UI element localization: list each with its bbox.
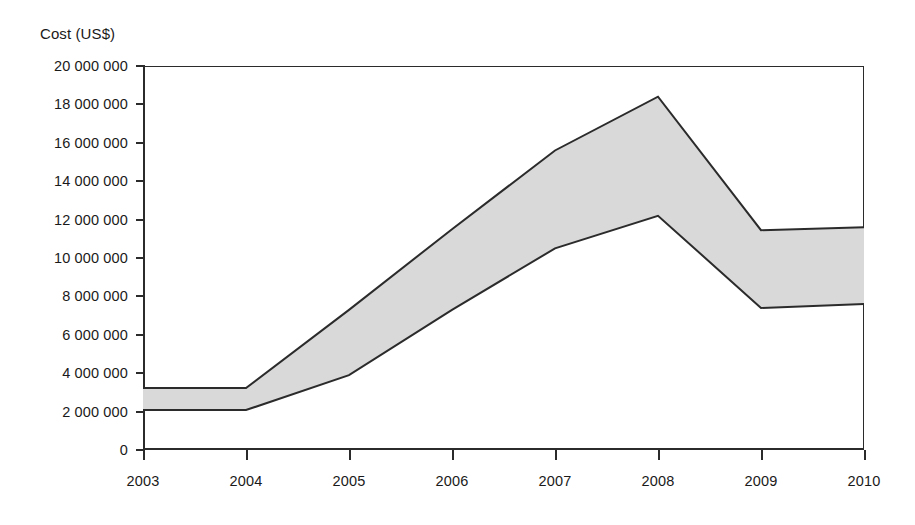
x-axis-tick-mark: [452, 450, 454, 460]
cost-range-band: [143, 97, 864, 410]
x-axis-tick-label: 2004: [201, 473, 291, 489]
y-axis-tick-label: 10 000 000: [32, 250, 128, 266]
y-axis-tick-label: 20 000 000: [32, 58, 128, 74]
plot-area: [143, 66, 864, 450]
x-axis-tick-mark: [143, 450, 145, 460]
x-axis-tick-mark: [658, 450, 660, 460]
x-axis-tick-label: 2003: [98, 473, 188, 489]
x-axis-tick-label: 2007: [510, 473, 600, 489]
x-axis-tick-label: 2006: [407, 473, 497, 489]
y-axis-tick-label: 12 000 000: [32, 212, 128, 228]
x-axis-tick-label: 2010: [819, 473, 909, 489]
x-axis-tick-mark: [349, 450, 351, 460]
x-axis-tick-mark: [246, 450, 248, 460]
x-axis-tick-mark: [864, 450, 866, 460]
x-axis-tick-label: 2005: [304, 473, 394, 489]
x-axis-tick-mark: [761, 450, 763, 460]
y-axis-tick-label: 16 000 000: [32, 135, 128, 151]
y-axis-tick-label: 14 000 000: [32, 173, 128, 189]
cost-range-chart: Cost (US$) 02 000 0004 000 0006 000 0008…: [0, 0, 915, 525]
x-axis-tick-label: 2009: [716, 473, 806, 489]
y-axis-tick-label: 6 000 000: [32, 327, 128, 343]
x-axis-tick-label: 2008: [613, 473, 703, 489]
x-axis-tick-mark: [555, 450, 557, 460]
y-axis-tick-label: 18 000 000: [32, 96, 128, 112]
y-axis-tick-label: 4 000 000: [32, 365, 128, 381]
y-axis-tick-label-group: 02 000 0004 000 0006 000 0008 000 00010 …: [0, 0, 128, 525]
y-axis-tick-label: 2 000 000: [32, 404, 128, 420]
y-axis-tick-label: 8 000 000: [32, 288, 128, 304]
y-axis-tick-label: 0: [32, 442, 128, 458]
